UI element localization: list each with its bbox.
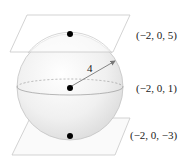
center-point-label: (−2, 0, 1): [136, 83, 177, 94]
bottom-point-dot: [67, 133, 73, 139]
top-point-label: (−2, 0, 5): [136, 30, 177, 41]
radius-label: 4: [87, 63, 93, 74]
top-point-dot: [67, 31, 73, 37]
bottom-point-label: (−2, 0, −3): [130, 130, 177, 141]
center-point-dot: [67, 85, 73, 91]
